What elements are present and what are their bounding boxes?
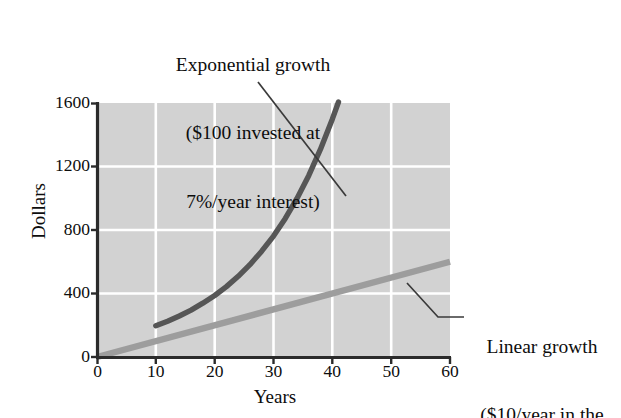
x-tick-label-0: 0 bbox=[72, 361, 124, 382]
annotation-exponential-growth: Exponential growth ($100 invested at 7%/… bbox=[128, 8, 378, 259]
exponential-vs-linear-growth-chart: Exponential growth ($100 invested at 7%/… bbox=[0, 0, 621, 418]
x-axis-title: Years bbox=[195, 386, 355, 408]
annotation-linear-line-2: ($10/year in the bbox=[466, 404, 618, 418]
x-tick-label-50: 50 bbox=[365, 361, 417, 382]
x-axis-tick-labels: 0 10 20 30 40 50 60 bbox=[0, 361, 621, 387]
y-axis-title: Dollars bbox=[28, 156, 50, 266]
annotation-exponential-line-3: 7%/year interest) bbox=[128, 191, 378, 214]
annotation-linear-growth: Linear growth ($10/year in the piggy ban… bbox=[466, 290, 618, 418]
x-tick-label-10: 10 bbox=[130, 361, 182, 382]
x-tick-label-40: 40 bbox=[306, 361, 358, 382]
x-tick-label-30: 30 bbox=[248, 361, 300, 382]
y-tick-label-1600: 1600 bbox=[26, 92, 90, 113]
annotation-exponential-line-2: ($100 invested at bbox=[128, 122, 378, 145]
annotation-linear-line-1: Linear growth bbox=[466, 336, 618, 359]
x-tick-label-20: 20 bbox=[189, 361, 241, 382]
x-tick-label-60: 60 bbox=[424, 361, 476, 382]
y-tick-label-400: 400 bbox=[26, 282, 90, 303]
annotation-exponential-line-1: Exponential growth bbox=[128, 54, 378, 77]
